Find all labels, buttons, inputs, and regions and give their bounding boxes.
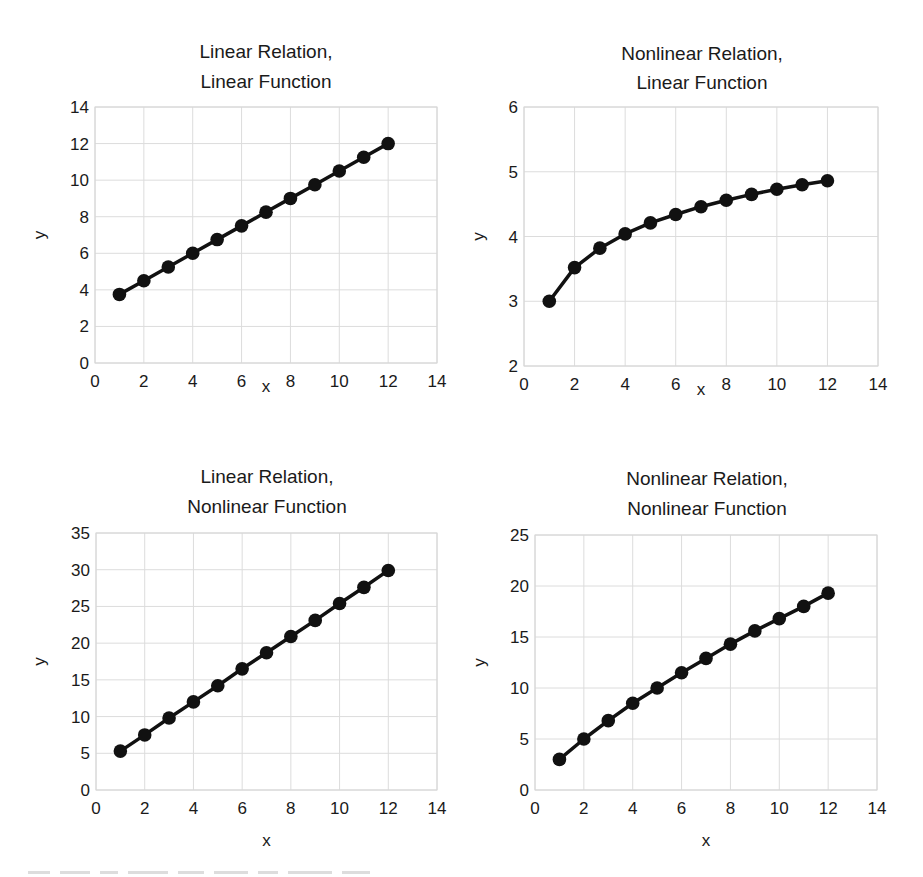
x-tick-label: 6 [677, 799, 686, 818]
data-point-marker [821, 174, 835, 188]
data-point-marker [650, 681, 664, 695]
data-point-marker [260, 646, 274, 660]
x-tick-label: 8 [726, 799, 735, 818]
y-tick-label: 25 [71, 597, 90, 616]
y-tick-label: 4 [80, 281, 89, 300]
data-point-marker [138, 728, 152, 742]
x-tick-label: 6 [237, 372, 246, 391]
x-axis-label: x [702, 831, 711, 850]
data-point-marker [187, 695, 201, 709]
data-point-marker [694, 200, 708, 214]
data-point-marker [795, 178, 809, 192]
data-point-marker [772, 612, 786, 626]
x-tick-label: 10 [767, 375, 786, 394]
x-tick-label: 14 [869, 375, 888, 394]
x-tick-label: 4 [189, 799, 198, 818]
chart-nonlinear-relation-nonlinear-function: Nonlinear Relation,Nonlinear Function024… [470, 468, 886, 850]
data-point-marker [162, 711, 176, 725]
x-tick-label: 8 [286, 372, 295, 391]
data-point-marker [211, 679, 225, 693]
data-point-marker [308, 178, 322, 192]
x-tick-label: 12 [379, 372, 398, 391]
data-point-marker [357, 150, 371, 164]
data-point-marker [308, 614, 322, 628]
data-point-marker [568, 261, 582, 275]
data-point-marker [542, 294, 556, 308]
y-tick-label: 14 [70, 98, 89, 117]
data-point-marker [821, 586, 835, 600]
x-tick-label: 14 [868, 799, 887, 818]
y-tick-label: 20 [71, 634, 90, 653]
y-tick-label: 35 [71, 524, 90, 543]
y-axis-ticks: 05101520253035 [71, 524, 90, 800]
y-tick-label: 15 [510, 628, 529, 647]
x-tick-label: 0 [519, 375, 528, 394]
y-tick-label: 0 [80, 354, 89, 373]
x-tick-label: 2 [140, 799, 149, 818]
y-tick-label: 5 [509, 163, 518, 182]
x-tick-label: 6 [237, 799, 246, 818]
data-point-marker [381, 564, 395, 578]
chart-title-line-2: Nonlinear Function [627, 498, 786, 519]
figure-panel: Linear Relation,Linear Function024681012… [0, 0, 923, 877]
data-point-marker [669, 208, 683, 222]
x-tick-label: 8 [286, 799, 295, 818]
data-point-marker [593, 241, 607, 255]
x-tick-label: 10 [330, 799, 349, 818]
data-point-marker [381, 137, 395, 151]
y-axis-label: y [470, 658, 489, 667]
y-axis-label: y [469, 232, 488, 241]
data-point-marker [332, 164, 346, 178]
x-tick-label: 2 [139, 372, 148, 391]
data-point-marker [137, 274, 151, 288]
chart-title-line-1: Nonlinear Relation, [626, 468, 788, 489]
x-tick-label: 4 [628, 799, 637, 818]
y-tick-label: 30 [71, 561, 90, 580]
y-axis-label: y [30, 657, 49, 666]
data-point-marker [797, 600, 811, 614]
x-tick-label: 0 [90, 372, 99, 391]
data-point-marker [719, 193, 733, 207]
y-tick-label: 5 [81, 744, 90, 763]
data-point-marker [235, 219, 249, 233]
data-series [113, 137, 395, 301]
data-point-marker [333, 597, 347, 611]
x-axis-label: x [697, 380, 706, 399]
x-axis-label: x [262, 377, 271, 396]
y-tick-label: 2 [80, 317, 89, 336]
x-tick-label: 4 [188, 372, 197, 391]
data-point-marker [113, 288, 127, 302]
data-point-marker [675, 666, 689, 680]
y-tick-label: 4 [509, 228, 518, 247]
x-axis-ticks: 02468101214 [530, 799, 886, 818]
data-point-marker [601, 714, 615, 728]
clipped-caption [28, 871, 528, 877]
x-tick-label: 12 [818, 375, 837, 394]
data-point-marker [235, 662, 249, 676]
y-tick-label: 8 [80, 208, 89, 227]
x-tick-label: 12 [819, 799, 838, 818]
data-point-marker [699, 652, 713, 666]
data-point-marker [724, 637, 738, 651]
y-axis-ticks: 23456 [509, 98, 518, 376]
data-point-marker [114, 744, 128, 758]
y-tick-label: 10 [70, 171, 89, 190]
data-point-marker [626, 697, 640, 711]
data-point-marker [577, 732, 591, 746]
data-point-marker [748, 624, 762, 638]
y-tick-label: 0 [520, 781, 529, 800]
y-tick-label: 6 [509, 98, 518, 117]
data-point-marker [357, 581, 371, 595]
y-tick-label: 0 [81, 781, 90, 800]
data-point-marker [259, 205, 273, 219]
chart-nonlinear-relation-linear-function: Nonlinear Relation,Linear Function024681… [469, 43, 887, 399]
x-tick-label: 0 [530, 799, 539, 818]
x-axis-ticks: 02468101214 [91, 799, 446, 818]
chart-title-line-2: Nonlinear Function [187, 496, 346, 517]
chart-linear-relation-linear-function: Linear Relation,Linear Function024681012… [30, 41, 446, 396]
data-point-marker [553, 753, 567, 767]
y-tick-label: 12 [70, 135, 89, 154]
series-line [549, 181, 827, 301]
data-point-marker [186, 246, 200, 260]
y-axis-label: y [30, 230, 49, 239]
